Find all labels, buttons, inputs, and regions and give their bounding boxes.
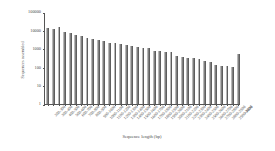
bar (237, 54, 240, 104)
x-axis-tick-labels: 200-300300-400400-500500-600600-700700-8… (44, 105, 244, 133)
bar-chart-figure: Sequences assembled 10000010000100010010… (0, 0, 275, 151)
bar (170, 52, 173, 103)
y-axis-tick-mark (43, 86, 45, 87)
bar (226, 66, 229, 104)
y-axis-tick-label: 10000 (30, 29, 41, 33)
bar (125, 45, 128, 103)
bar (158, 51, 161, 103)
bar (108, 43, 111, 104)
bar (164, 52, 167, 104)
bar (147, 48, 150, 103)
y-axis-tick-mark (43, 68, 45, 69)
y-axis-tick-label: 1 (39, 102, 41, 106)
y-axis-tick-label: 10 (37, 84, 41, 88)
bar (74, 35, 77, 103)
y-axis-tick-mark (43, 13, 45, 14)
bar (192, 58, 195, 103)
plot-area (44, 13, 240, 105)
bar (130, 46, 133, 103)
bar (69, 33, 72, 103)
bar (136, 47, 139, 103)
bar (97, 40, 100, 104)
y-axis-tick-label: 100000 (28, 10, 41, 14)
bar (119, 44, 122, 103)
x-axis-title: Sequence length (bp) (44, 134, 240, 140)
bar (80, 36, 83, 104)
y-axis-tick-label: 100 (35, 66, 41, 70)
y-axis-tick-mark (43, 31, 45, 32)
bar (153, 51, 156, 104)
y-axis-tick-mark (43, 49, 45, 50)
bar (231, 67, 234, 104)
bar (203, 61, 206, 103)
bar (198, 59, 201, 103)
bar (52, 29, 55, 103)
bar (186, 58, 189, 104)
bar (58, 27, 61, 103)
bar (91, 39, 94, 103)
bar (142, 48, 145, 103)
bar (46, 28, 49, 103)
y-axis-tick-label: 1000 (32, 47, 41, 51)
bar (102, 41, 105, 103)
bar (209, 62, 212, 104)
bar (175, 56, 178, 103)
bar-series (45, 13, 240, 104)
y-axis-tick-labels: 100000100001000100101 (18, 10, 43, 106)
bar (181, 57, 184, 104)
bar (63, 32, 66, 104)
bar (114, 43, 117, 103)
bar (86, 38, 89, 104)
bar (220, 66, 223, 104)
bar (214, 65, 217, 103)
